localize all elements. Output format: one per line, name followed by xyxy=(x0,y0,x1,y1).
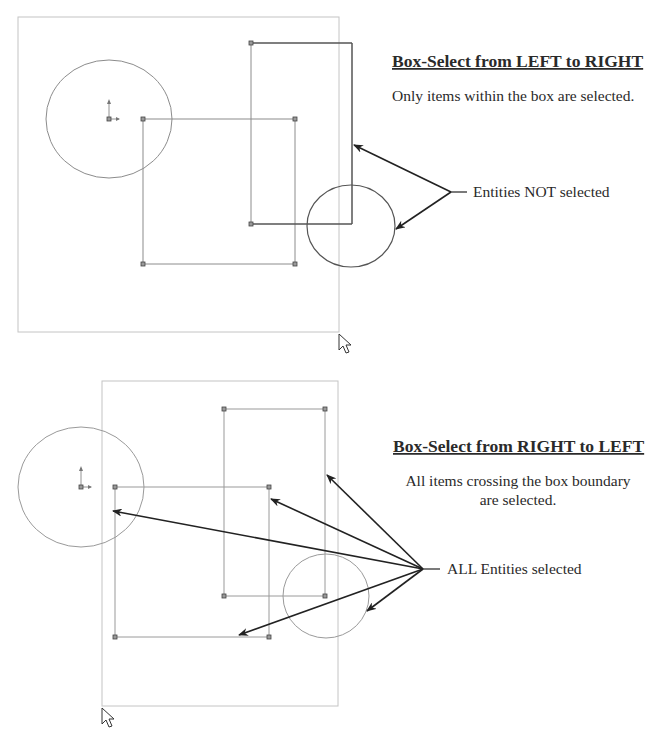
circle-entity-right[interactable] xyxy=(307,185,395,267)
origin-icon xyxy=(79,466,92,489)
corner-point xyxy=(113,485,117,489)
callout-arrows xyxy=(354,145,467,229)
corner-point xyxy=(113,635,117,639)
heading-right-to-left: Box-Select from RIGHT to LEFT xyxy=(393,436,644,456)
callout-arrows xyxy=(113,475,440,635)
corner-point xyxy=(222,594,226,598)
description-left-to-right: Only items within the box are selected. xyxy=(392,87,634,104)
description-right-to-left-line1: All items crossing the box boundary xyxy=(405,472,630,489)
heading-left-to-right: Box-Select from LEFT to RIGHT xyxy=(392,51,643,71)
corner-point xyxy=(323,594,327,598)
rectangle-entity-tall[interactable] xyxy=(249,41,352,226)
corner-point xyxy=(141,262,145,266)
selection-box-right-to-left[interactable] xyxy=(102,381,338,706)
callout-all-selected: ALL Entities selected xyxy=(447,560,582,577)
corner-point xyxy=(323,407,327,411)
callout-not-selected: Entities NOT selected xyxy=(473,183,610,200)
arrow-cursor-icon xyxy=(339,334,351,353)
rectangle-entity-middle[interactable] xyxy=(143,119,295,264)
bottom-panel: Box-Select from RIGHT to LEFT All items … xyxy=(18,381,644,727)
corner-point xyxy=(141,117,145,121)
corner-point xyxy=(267,485,271,489)
arrow-cursor-icon xyxy=(102,708,114,727)
description-right-to-left-line2: are selected. xyxy=(480,491,557,508)
corner-point xyxy=(267,635,271,639)
selection-box-left-to-right[interactable] xyxy=(18,17,339,332)
rectangle-entity-middle[interactable] xyxy=(115,487,269,637)
origin-icon xyxy=(107,99,120,121)
corner-point xyxy=(222,407,226,411)
top-panel: Box-Select from LEFT to RIGHT Only items… xyxy=(18,17,643,353)
corner-point xyxy=(293,117,297,121)
rectangle-entity-tall[interactable] xyxy=(224,409,325,596)
corner-point xyxy=(293,262,297,266)
